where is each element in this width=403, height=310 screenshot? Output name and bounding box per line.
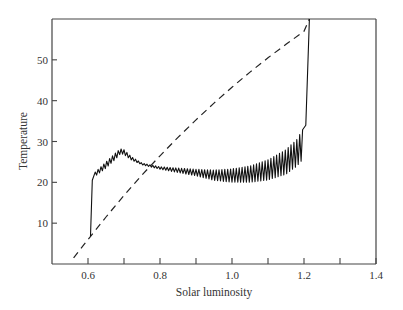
chart-series <box>74 19 310 258</box>
y-axis-title: Temperature <box>17 112 30 170</box>
x-tick-label: 1.0 <box>225 269 239 281</box>
x-tick-label: 0.6 <box>81 269 95 281</box>
plot-frame <box>52 19 376 264</box>
x-axis-title: Solar luminosity <box>176 286 253 299</box>
x-tick-label: 0.8 <box>153 269 167 281</box>
x-tick-label: 1.4 <box>369 269 383 281</box>
x-tick-label: 1.2 <box>297 269 311 281</box>
y-tick-label: 20 <box>37 176 49 188</box>
y-axis-ticks: 1020304050 <box>37 54 57 229</box>
dashed-curve <box>74 19 310 258</box>
chart: 0.60.81.01.21.4 1020304050 Solar luminos… <box>0 0 403 310</box>
y-tick-label: 30 <box>37 136 49 148</box>
y-tick-label: 40 <box>37 95 49 107</box>
y-tick-label: 50 <box>37 54 49 66</box>
x-axis-ticks: 0.60.81.01.21.4 <box>81 258 383 281</box>
y-tick-label: 10 <box>37 217 49 229</box>
